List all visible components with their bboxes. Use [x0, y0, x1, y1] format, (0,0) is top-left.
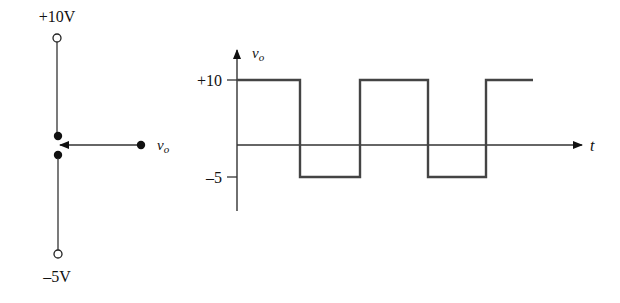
- bottom-terminal-icon: [54, 250, 62, 258]
- bottom-supply-label: –5V: [42, 268, 71, 285]
- top-contact-dot-icon: [54, 132, 62, 140]
- output-node-dot-icon: [137, 141, 145, 149]
- waveform-chart: vo t +10 –5: [197, 45, 595, 211]
- square-wave-trace: [237, 80, 533, 177]
- diagram-canvas: +10V –5V vo vo t +10 –5: [0, 0, 620, 303]
- output-label: vo: [157, 137, 170, 155]
- top-terminal-icon: [53, 34, 61, 42]
- top-supply-label: +10V: [39, 8, 76, 25]
- x-axis-label: t: [590, 137, 595, 154]
- tick-label-minus5: –5: [205, 169, 222, 186]
- y-axis-label: vo: [252, 45, 265, 63]
- tick-label-plus10: +10: [197, 72, 222, 89]
- bottom-contact-dot-icon: [54, 151, 62, 159]
- switch-circuit: +10V –5V vo: [39, 8, 170, 285]
